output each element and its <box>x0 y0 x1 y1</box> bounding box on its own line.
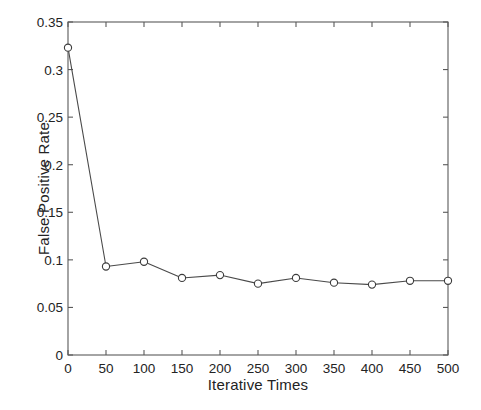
data-point-marker <box>406 277 413 284</box>
x-axis-title: Iterative Times <box>68 376 448 393</box>
data-point-marker <box>140 258 147 265</box>
data-point-marker <box>178 274 185 281</box>
cropped-caption <box>0 401 481 410</box>
data-point-marker <box>64 44 71 51</box>
data-point-marker <box>102 263 109 270</box>
data-point-marker <box>444 277 451 284</box>
data-point-marker <box>254 280 261 287</box>
data-series-line <box>68 48 448 285</box>
plot-area <box>0 0 481 410</box>
x-axis-tick-label: 500 <box>418 361 478 376</box>
y-axis-title: False Positive Rate <box>32 22 54 355</box>
chart-figure: 00.050.10.150.20.250.30.35 0501001502002… <box>0 0 481 410</box>
data-point-marker <box>216 271 223 278</box>
data-point-marker <box>368 281 375 288</box>
axes-box <box>68 22 448 355</box>
data-point-marker <box>292 274 299 281</box>
data-point-marker <box>330 279 337 286</box>
